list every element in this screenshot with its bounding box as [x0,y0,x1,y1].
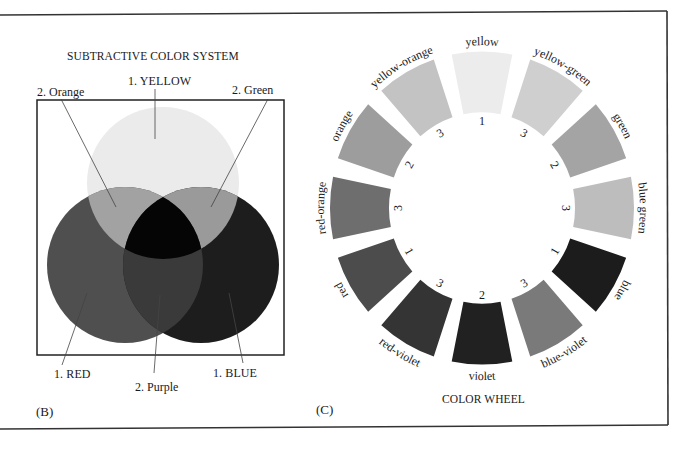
frame-top-rule [0,11,667,15]
wheel-label: yellow [465,34,500,49]
wheel-segment-blue-green [573,177,634,239]
color-wheel: 1yellow3yellow-green2green3blue green1bl… [313,34,651,383]
venn-title: SUBTRACTIVE COLOR SYSTEM [67,51,239,63]
frame-bottom-rule [0,425,668,429]
wheel-number: 3 [434,275,446,290]
wheel-number: 2 [479,288,485,302]
wheel-segment-violet [452,302,513,365]
wheel-label: red [331,280,351,300]
wheel-segment-yellow [452,51,513,114]
label-red: 1. RED [54,368,91,380]
wheel-title: COLOR WHEEL [442,394,525,406]
wheel-number: 3 [518,126,530,141]
wheel-number: 2 [402,159,417,171]
wheel-segment-red [338,238,412,311]
wheel-number: 3 [434,126,446,141]
wheel-label: blue green [635,182,651,235]
wheel-segment-red-orange [330,177,391,239]
label-purple: 2. Purple [135,381,178,393]
wheel-label: violet [468,368,496,383]
wheel-label: red-orange [313,181,329,236]
wheel-number: 1 [547,245,562,257]
panel-letter-c: (C) [316,403,333,416]
frame-right-rule [667,11,668,425]
label-yellow: 1. YELLOW [128,75,191,87]
wheel-number: 3 [559,205,573,211]
wheel-number: 1 [479,114,485,128]
figure-canvas: 1yellow3yellow-green2green3blue green1bl… [0,0,698,454]
wheel-number: 1 [402,245,417,257]
panel-letter-b: (B) [36,405,53,418]
wheel-number: 3 [391,205,405,211]
wheel-number: 2 [547,159,562,171]
wheel-number: 3 [518,275,530,290]
label-orange: 2. Orange [37,86,84,98]
label-blue: 1. BLUE [213,367,257,379]
label-green: 2. Green [232,84,273,96]
figure: 1yellow3yellow-green2green3blue green1bl… [0,0,698,454]
subtractive-venn-diagram [37,89,284,373]
wheel-segment-blue [552,238,626,311]
